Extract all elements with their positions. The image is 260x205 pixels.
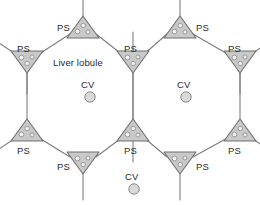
ps-upper-middle-triad-icon — [117, 51, 149, 73]
cv-left-label: CV — [81, 80, 94, 90]
liver-lobule-annotation: Liver lobule — [53, 58, 103, 68]
ps-bottom-left-label: PS — [57, 162, 70, 172]
cv-bottom-label: CV — [125, 172, 138, 182]
ps-lower-middle-triad-icon — [117, 119, 149, 141]
ps-lower-middle-label: PS — [124, 146, 137, 156]
ps-lower-left-triad-icon — [11, 119, 43, 141]
ps-top-left-label: PS — [57, 23, 70, 33]
ps-upper-left-triad-icon — [11, 51, 43, 73]
ps-bottom-left-triad-icon — [67, 152, 99, 174]
liver-lobule-diagram: PSPSPSPSPSPSPSPSPSPSCVCVCVLiver lobule — [0, 0, 260, 205]
ps-lower-right-label: PS — [228, 146, 241, 156]
ps-upper-right-triad-icon — [224, 51, 256, 73]
cv-left-vein-icon — [85, 92, 95, 102]
ps-lower-left-label: PS — [17, 146, 30, 156]
cv-bottom-vein-icon — [129, 184, 139, 194]
cv-right-vein-icon — [181, 92, 191, 102]
lobule-boundary-lines — [0, 0, 260, 200]
ps-bottom-right-label: PS — [196, 162, 209, 172]
ps-top-right-label: PS — [196, 23, 209, 33]
ps-upper-right-label: PS — [228, 44, 241, 54]
cv-right-label: CV — [177, 80, 190, 90]
ps-upper-left-label: PS — [17, 44, 30, 54]
ps-upper-middle-label: PS — [124, 44, 137, 54]
ps-bottom-right-triad-icon — [164, 152, 196, 174]
ps-top-right-triad-icon — [164, 16, 196, 38]
ps-lower-right-triad-icon — [224, 119, 256, 141]
ps-top-left-triad-icon — [67, 16, 99, 38]
